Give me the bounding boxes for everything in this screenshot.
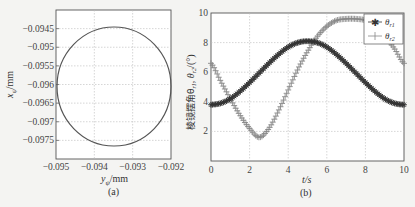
y-tick-label: 6 <box>203 67 208 77</box>
x-tick-label: 4 <box>286 165 291 175</box>
panel-a: −0.0945−0.095−0.0955−0.096−0.0965−0.097−… <box>4 10 185 198</box>
y-tick-label: −0.0975 <box>23 135 55 145</box>
y-tick-label: 8 <box>203 38 208 48</box>
y-tick-label: 10 <box>199 8 209 18</box>
y-tick-label: −0.0955 <box>23 61 55 71</box>
x-tick-label: −0.093 <box>119 162 146 172</box>
legend: ✱ θr1 θr2 <box>364 14 403 44</box>
x-tick-label: −0.095 <box>43 162 70 172</box>
y-tick-label: −0.0945 <box>23 24 55 34</box>
y-tick-label: −0.097 <box>27 117 54 127</box>
y-tick-label: −0.0965 <box>23 98 55 108</box>
y-ticks-a: −0.0945−0.095−0.0955−0.096−0.0965−0.097−… <box>23 24 55 146</box>
figure: −0.0945−0.095−0.0955−0.096−0.0965−0.097−… <box>0 0 415 207</box>
y-axis-label-a: xψ/mm <box>4 71 18 99</box>
x-axis-label-b: t/s <box>302 174 312 185</box>
x-tick-label: 6 <box>324 165 329 175</box>
x-tick-label: 8 <box>363 165 368 175</box>
x-ticks-a: −0.095−0.094−0.093−0.092 <box>43 162 185 172</box>
x-tick-label: 10 <box>399 165 409 175</box>
caption-a: (a) <box>108 186 119 198</box>
x-tick-label: −0.094 <box>81 162 108 172</box>
x-axis-label-a: yψ/mm <box>100 173 128 187</box>
x-tick-label: −0.092 <box>158 162 185 172</box>
star-marker-icon: ✱ <box>371 17 379 28</box>
y-tick-label: −0.095 <box>27 42 54 52</box>
y-ticks-b: 246810 <box>199 8 209 136</box>
caption-b: (b) <box>300 187 312 199</box>
y-tick-label: 4 <box>203 97 208 107</box>
y-tick-label: 2 <box>203 126 208 136</box>
y-axis-label-b: 棱镜摆角θr1, θr2/(°) <box>185 54 197 130</box>
x-tick-label: 2 <box>247 165 252 175</box>
panel-b: 246810 0246810 ✱ θr1 θr2 棱镜 <box>185 8 409 199</box>
x-tick-label: 0 <box>209 165 214 175</box>
y-tick-label: −0.096 <box>27 80 54 90</box>
